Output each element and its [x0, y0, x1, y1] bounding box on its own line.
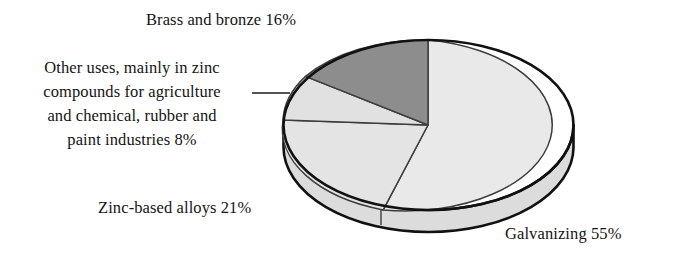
pie-label-other-uses-line-3: and chemical, rubber and — [16, 104, 248, 128]
pie-label-other-uses-line-4: paint industries 8% — [16, 128, 248, 152]
pie-chart-figure: Brass and bronze 16% Other uses, mainly … — [0, 0, 676, 262]
pie-label-galvanizing: Galvanizing 55% — [505, 222, 622, 246]
pie-label-zinc-based-alloys: Zinc-based alloys 21% — [98, 196, 251, 220]
pie-label-other-uses: Other uses, mainly in zinc compounds for… — [16, 56, 248, 152]
pie-label-other-uses-line-2: compounds for agriculture — [16, 80, 248, 104]
pie-label-brass-and-bronze: Brass and bronze 16% — [146, 8, 296, 32]
pie-label-other-uses-line-1: Other uses, mainly in zinc — [16, 56, 248, 80]
pie-top-face — [282, 40, 573, 211]
